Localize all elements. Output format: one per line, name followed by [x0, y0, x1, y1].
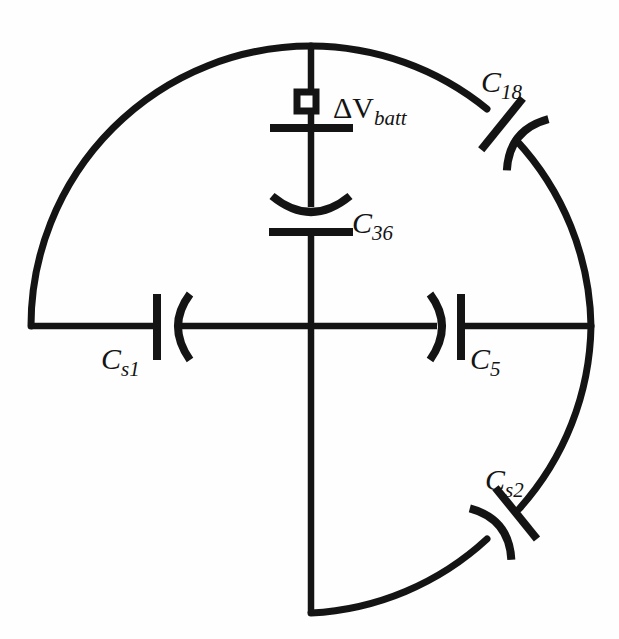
- cs1-label-sub: s1: [121, 357, 140, 381]
- arc-top-right-lower: [516, 140, 591, 326]
- cs2-label: Cs2: [485, 463, 524, 502]
- arc-bottom-right-upper: [519, 326, 591, 509]
- battery-label-main: ΔV: [333, 91, 374, 124]
- arc-bottom-right-lower: [311, 539, 487, 613]
- c18-label: C18: [481, 65, 523, 104]
- c5-label-main: C: [470, 342, 491, 375]
- cs1-label-main: C: [101, 342, 122, 375]
- c36-label-main: C: [352, 206, 373, 239]
- c36-label: C36: [352, 206, 394, 245]
- c5-label-sub: 5: [490, 357, 501, 381]
- cs2-label-sub: s2: [505, 478, 524, 502]
- c36-label-sub: 36: [371, 221, 394, 245]
- c18-label-main: C: [481, 65, 502, 98]
- c5-label: C5: [470, 342, 501, 381]
- cs2-label-main: C: [485, 463, 506, 496]
- battery-label-sub: batt: [374, 106, 408, 130]
- arc-top-left: [31, 46, 311, 326]
- circuit-canvas: ΔVbatt C36 C18 Cs1 C5 Cs2: [0, 0, 619, 639]
- circuit-diagram: ΔVbatt C36 C18 Cs1 C5 Cs2: [0, 0, 619, 639]
- cs1-label: Cs1: [101, 342, 140, 381]
- c18-symbol: [481, 98, 548, 170]
- c18-label-sub: 18: [501, 80, 523, 104]
- battery-square-icon: [297, 92, 316, 111]
